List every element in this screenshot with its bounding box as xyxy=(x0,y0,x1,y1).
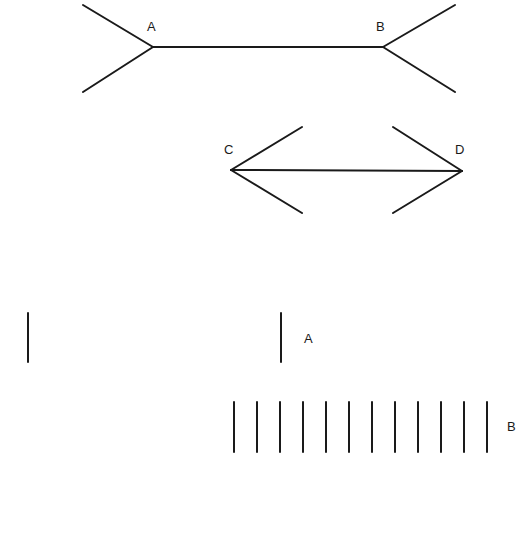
top-fins xyxy=(83,5,455,92)
fin-line xyxy=(83,5,153,47)
middle-figure: C D xyxy=(224,127,464,213)
top-figure: A B xyxy=(83,5,455,92)
row-a-lines xyxy=(28,313,281,362)
fin-line xyxy=(383,5,455,47)
label-a-row: A xyxy=(304,331,313,346)
label-a-top: A xyxy=(147,19,156,34)
label-d: D xyxy=(455,142,464,157)
fin-line xyxy=(231,170,302,213)
row-b-lines xyxy=(234,402,487,452)
fin-line xyxy=(231,127,302,170)
muller-lyer-diagram: A B C D A B xyxy=(0,0,523,539)
row-b: B xyxy=(234,402,516,452)
middle-shaft-line xyxy=(231,170,462,171)
fin-line xyxy=(383,47,455,92)
fin-line xyxy=(83,47,153,92)
row-a: A xyxy=(28,313,313,362)
label-b-top: B xyxy=(376,19,385,34)
fin-line xyxy=(393,127,462,171)
label-c: C xyxy=(224,142,233,157)
label-b-row: B xyxy=(507,419,516,434)
fin-line xyxy=(393,171,462,213)
